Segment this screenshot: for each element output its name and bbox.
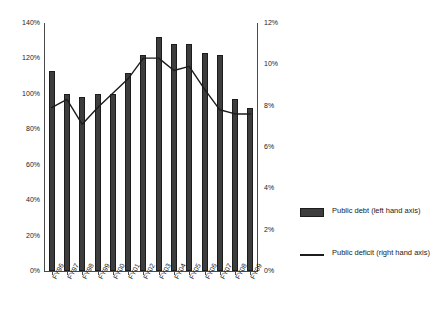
right-axis-tick: 12% [264, 19, 298, 27]
left-axis-tick: 80% [6, 125, 40, 133]
line-series-public-deficit [44, 23, 258, 271]
left-axis-tick: 0% [6, 267, 40, 275]
left-axis-tick: 60% [6, 161, 40, 169]
bar-swatch-icon [300, 208, 324, 217]
plot-area [44, 23, 258, 271]
deficit-polyline [52, 58, 251, 124]
right-axis-tick: 0% [264, 267, 298, 275]
legend-item-public-deficit: Public deficit (right hand axis) [300, 247, 440, 263]
right-axis-tick: 4% [264, 184, 298, 192]
right-axis-tick: 2% [264, 226, 298, 234]
left-axis-tick: 140% [6, 19, 40, 27]
line-swatch-icon [300, 254, 324, 256]
legend-item-public-debt: Public debt (left hand axis) [300, 205, 440, 221]
chart-legend: Public debt (left hand axis) Public defi… [300, 205, 440, 289]
legend-label-public-deficit: Public deficit (right hand axis) [332, 248, 430, 258]
left-axis-tick: 100% [6, 90, 40, 98]
left-axis-tick: 120% [6, 54, 40, 62]
legend-label-public-debt: Public debt (left hand axis) [332, 206, 420, 216]
x-axis-tick-labels: FY96FY97FY98FY99FY00FY01FY02FY03FY04FY05… [44, 272, 258, 312]
left-axis-tick: 20% [6, 232, 40, 240]
right-axis-tick: 10% [264, 60, 298, 68]
chart-root: 0%20%40%60%80%100%120%140% 0%2%4%6%8%10%… [0, 0, 441, 312]
left-axis-tick: 40% [6, 196, 40, 204]
right-axis-tick: 6% [264, 143, 298, 151]
right-axis-tick: 8% [264, 102, 298, 110]
